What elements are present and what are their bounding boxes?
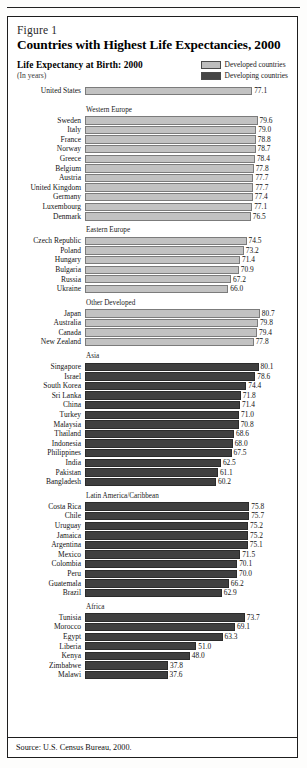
bar-track: 77.8 [85,337,290,347]
bar [85,541,248,549]
bar-track: 77.7 [85,173,290,183]
chart-row: South Korea74.4 [15,381,290,391]
bar [85,613,245,621]
chart-row: Tunisia73.7 [15,613,290,623]
row-label: United Kingdom [15,183,85,193]
panel-rows: Singapore80.1Israel78.6South Korea74.4Sr… [15,362,290,487]
bar-value-label: 80.1 [259,362,274,372]
chart-row: Guatemala66.2 [15,579,290,589]
chart-row: United States77.1 [15,86,290,96]
chart-row: Zimbabwe37.8 [15,661,290,671]
bar-value-label: 74.5 [247,236,262,246]
figure-number: Figure 1 [17,24,290,36]
bar-track: 71.4 [85,255,290,265]
chart-row: Peru70.0 [15,569,290,579]
bar [85,579,229,587]
bar-track: 77.1 [85,86,290,96]
figure-box: Figure 1 Countries with Highest Life Exp… [7,16,298,758]
bar [85,478,216,486]
bar-value-label: 71.4 [240,400,255,410]
bar-track: 62.9 [85,588,290,598]
bar [85,145,256,153]
panel-africa: AfricaTunisia73.7Morocco69.1Egypt63.3Lib… [15,603,290,680]
row-label: Uruguay [15,521,85,531]
row-label: Italy [15,125,85,135]
bar-track: 51.0 [85,642,290,652]
bar-value-label: 75.8 [249,502,264,512]
bar-track: 48.0 [85,651,290,661]
row-label: Guatemala [15,579,85,589]
chart-row: Belgium77.8 [15,164,290,174]
chart-row: Costa Rica75.8 [15,502,290,512]
bar [85,570,237,578]
bar-value-label: 78.4 [255,154,270,164]
row-label: Malawi [15,670,85,680]
bar [85,502,249,510]
bar-track: 71.5 [85,550,290,560]
row-label: Zimbabwe [15,661,85,671]
bar-value-label: 70.8 [239,420,254,430]
bar [85,589,222,597]
row-label: Luxembourg [15,202,85,212]
bar-track: 71.0 [85,410,290,420]
bar [85,652,190,660]
bar-track: 78.6 [85,372,290,382]
bar-track: 78.7 [85,144,290,154]
source-note: Source: U.S. Census Bureau, 2000. [8,737,297,757]
bar [85,449,232,457]
bar-track: 75.2 [85,521,290,531]
panel-rows: Tunisia73.7Morocco69.1Egypt63.3Liberia51… [15,613,290,680]
bar-value-label: 73.2 [244,246,259,256]
row-label: Tunisia [15,613,85,623]
bar-track: 71.8 [85,391,290,401]
chart-row: Germany77.4 [15,192,290,202]
bar-value-label: 77.8 [254,337,269,347]
legend-swatch-developed-icon [201,61,221,69]
bar-value-label: 75.7 [249,511,264,521]
row-label: Czech Republic [15,236,85,246]
bar-track: 60.2 [85,477,290,487]
subhead-row: Life Expectancy at Birth: 2000 (In years… [17,60,290,84]
bar-track: 73.2 [85,246,290,256]
bar [85,550,240,558]
bar-value-label: 69.1 [235,622,250,632]
row-label: Bangladesh [15,477,85,487]
bar-value-label: 63.3 [223,632,238,642]
chart-row: India62.5 [15,458,290,468]
row-label: Germany [15,192,85,202]
bar-value-label: 79.6 [258,116,273,126]
bar-track: 75.2 [85,531,290,541]
row-label: Turkey [15,410,85,420]
bar [85,623,235,631]
bar-value-label: 77.8 [254,164,269,174]
panel-header: Western Europe [86,106,307,115]
row-label: Greece [15,154,85,164]
row-label: Sweden [15,116,85,126]
page-top-rule [7,7,300,8]
bar-value-label: 71.0 [239,410,254,420]
row-label: Kenya [15,651,85,661]
bar [85,338,254,346]
bar [85,671,168,679]
bar [85,430,234,438]
row-label: Belgium [15,164,85,174]
legend-item-developing: Developing countries [201,71,288,80]
row-label: Ukraine [15,284,85,294]
row-label: India [15,458,85,468]
bar-track: 77.1 [85,202,290,212]
chart-row: Denmark76.5 [15,212,290,222]
chart-row: Ukraine66.0 [15,284,290,294]
bar-track: 70.0 [85,569,290,579]
row-label: Jamaica [15,531,85,541]
bar-track: 37.6 [85,670,290,680]
chart-row: Bulgaria70.9 [15,265,290,275]
panel-header: Latin America/Caribbean [86,492,307,501]
chart-row: United Kingdom77.7 [15,183,290,193]
row-label: Mexico [15,550,85,560]
bar-value-label: 70.1 [237,559,252,569]
bar [85,164,254,172]
bar [85,203,252,211]
row-label: France [15,135,85,145]
row-label: Denmark [15,212,85,222]
bar [85,372,255,380]
